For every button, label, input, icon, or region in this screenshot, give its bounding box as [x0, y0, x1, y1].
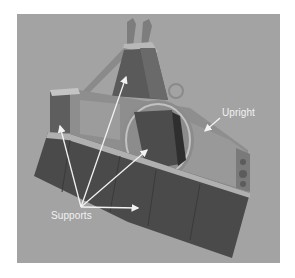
upright-label: Upright: [222, 107, 255, 118]
part-rendering: [0, 0, 295, 278]
lifting-eye: [169, 84, 183, 98]
supports-label: Supports: [51, 210, 92, 221]
